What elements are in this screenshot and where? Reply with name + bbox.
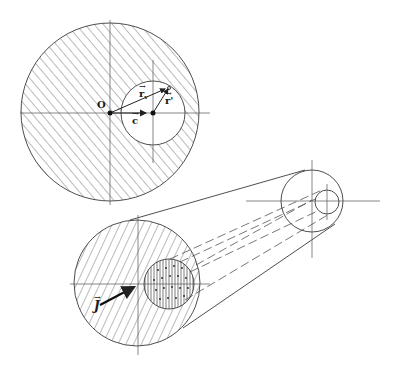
top-cross-section <box>20 20 210 205</box>
origin-point <box>108 111 113 116</box>
label-origin: O <box>97 100 106 110</box>
label-vector-rprime: →r' <box>165 96 173 106</box>
label-vector-c: →c <box>132 116 138 126</box>
label-vector-j: →J <box>94 300 100 312</box>
diagram-canvas: O →c →rv →r' →J <box>0 0 402 372</box>
cavity-center-point <box>151 111 156 116</box>
diagram-svg <box>0 0 402 372</box>
label-vector-rv: →rv <box>139 89 148 100</box>
